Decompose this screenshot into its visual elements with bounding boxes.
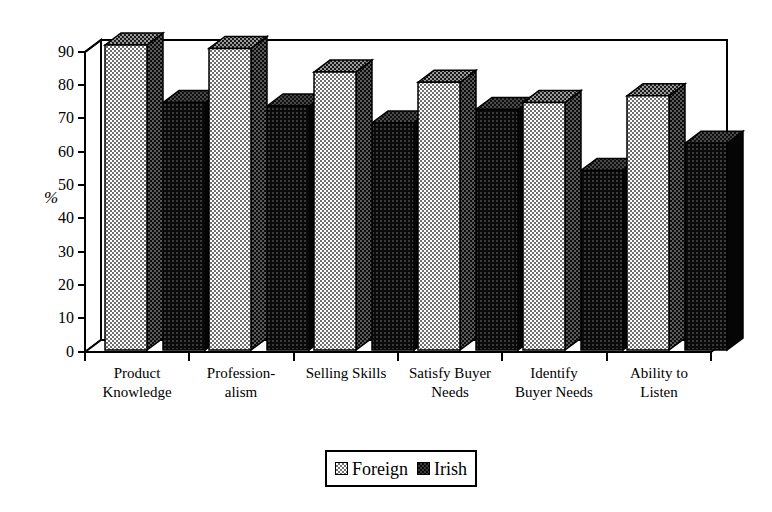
plot-frame	[0, 0, 772, 512]
bar-irish-5-top-face	[685, 131, 743, 143]
x-label-5-line2: Listen	[609, 383, 709, 402]
legend-item-irish[interactable]: Irish	[417, 460, 467, 478]
bar-3d-faces	[0, 0, 772, 512]
bar-irish-4-top-face	[581, 158, 639, 170]
bar-foreign-2-top-face	[314, 60, 372, 72]
bar-irish-5	[685, 143, 727, 350]
x-label-5-line1: Ability to	[609, 364, 709, 383]
irish-swatch-icon	[417, 462, 430, 475]
bar-irish-3	[476, 109, 518, 350]
bar-irish-4	[581, 170, 623, 350]
bar-irish-2-top-face	[372, 111, 430, 123]
x-label-0-line1: Product	[87, 364, 187, 383]
legend-item-foreign[interactable]: Foreign	[335, 460, 408, 478]
bar-foreign-3-side-face	[460, 70, 476, 350]
bar-foreign-2-side-face	[356, 60, 372, 350]
y-tick-70: 70	[40, 110, 74, 126]
x-label-1-line2: alism	[191, 383, 291, 402]
x-label-1: Profession- alism	[191, 364, 291, 402]
bar-foreign-3-top-face	[418, 70, 476, 82]
bar-irish-1	[267, 106, 309, 350]
y-tick-90: 90	[40, 44, 74, 60]
bar-foreign-0-side-face	[147, 33, 163, 350]
x-label-1-line1: Profession-	[191, 364, 291, 383]
x-label-4-line2: Buyer Needs	[504, 383, 604, 402]
bar-foreign-0-top-face	[105, 33, 163, 45]
x-label-4: Identify Buyer Needs	[504, 364, 604, 402]
bar-foreign-2	[314, 72, 356, 350]
x-label-5: Ability to Listen	[609, 364, 709, 402]
bar-irish-4-side-face	[623, 158, 639, 350]
bar-foreign-5-top-face	[627, 84, 685, 96]
chart-figure: 90 80 70 60 50 40 30 20 10 0 % Product K…	[0, 0, 772, 512]
bar-foreign-5-side-face	[669, 84, 685, 350]
x-label-4-line1: Identify	[504, 364, 604, 383]
bar-irish-3-top-face	[476, 97, 534, 109]
bar-irish-2-side-face	[414, 111, 430, 350]
legend-label-irish: Irish	[434, 460, 467, 478]
y-tick-80: 80	[40, 77, 74, 93]
x-label-3-line1: Satisfy Buyer	[400, 364, 500, 383]
bar-irish-1-side-face	[309, 94, 325, 350]
y-tick-60: 60	[40, 144, 74, 160]
x-label-2-line1: Selling Skills	[296, 364, 396, 383]
bar-irish-3-side-face	[518, 97, 534, 350]
bar-irish-0-side-face	[205, 91, 221, 350]
legend-label-foreign: Foreign	[352, 460, 408, 478]
bar-foreign-4-side-face	[565, 91, 581, 350]
x-label-3-line2: Needs	[400, 383, 500, 402]
x-label-3: Satisfy Buyer Needs	[400, 364, 500, 402]
bar-foreign-3	[418, 82, 460, 350]
bar-irish-0	[163, 103, 205, 350]
bar-foreign-1-side-face	[251, 36, 267, 350]
y-tick-30: 30	[40, 244, 74, 260]
chart-legend: Foreign Irish	[325, 450, 477, 487]
y-tick-10: 10	[40, 310, 74, 326]
bar-irish-1-top-face	[267, 94, 325, 106]
bar-foreign-4-top-face	[523, 91, 581, 103]
bar-foreign-0	[105, 45, 147, 350]
bar-irish-2	[372, 123, 414, 350]
bar-foreign-1	[209, 48, 251, 350]
x-label-0: Product Knowledge	[87, 364, 187, 402]
bar-foreign-1-top-face	[209, 36, 267, 48]
y-tick-40: 40	[40, 210, 74, 226]
bar-foreign-4	[523, 103, 565, 350]
x-label-0-line2: Knowledge	[87, 383, 187, 402]
y-axis-label: %	[44, 188, 58, 208]
foreign-swatch-icon	[335, 462, 348, 475]
bar-irish-0-top-face	[163, 91, 221, 103]
bar-foreign-5	[627, 96, 669, 350]
y-tick-20: 20	[40, 277, 74, 293]
y-tick-0: 0	[40, 344, 74, 360]
x-label-2: Selling Skills	[296, 364, 396, 383]
bar-irish-5-side-face	[727, 131, 743, 350]
